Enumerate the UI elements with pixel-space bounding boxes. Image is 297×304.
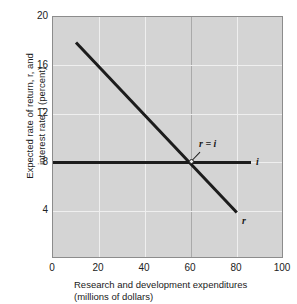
gridline-x-80	[237, 17, 238, 257]
x-tick-60: 60	[175, 263, 205, 273]
x-axis-label-line-2: (millions of dollars)	[74, 291, 247, 303]
x-axis-ticks: 0 20 40 60 80 100	[0, 263, 297, 277]
y-axis-label-line-2: interest rate, i (percent)	[36, 1, 48, 231]
x-axis-label: Research and development expenditures (m…	[74, 279, 247, 303]
gridline-x-60	[191, 17, 192, 257]
y-axis-label: Expected rate of return, r, and interest…	[24, 1, 48, 231]
x-tick-20: 20	[83, 263, 113, 273]
equilibrium-annotation-label: r = i	[199, 139, 216, 149]
series-label-i: i	[256, 157, 259, 167]
gridline-x-20	[99, 17, 100, 257]
x-tick-40: 40	[129, 263, 159, 273]
series-line-i	[53, 161, 251, 164]
y-axis-label-line-1: Expected rate of return, r, and	[24, 1, 36, 231]
x-axis-label-line-1: Research and development expenditures	[74, 279, 247, 291]
equilibrium-point-marker	[189, 159, 194, 164]
gridline-y-4	[53, 211, 282, 212]
chart-figure: r = i i r 20 16 12 8 4 0 20 40 60 80 100…	[0, 0, 297, 304]
gridline-x-40	[145, 17, 146, 257]
x-tick-80: 80	[221, 263, 251, 273]
plot-area: r = i i r	[52, 16, 283, 258]
x-tick-0: 0	[37, 263, 67, 273]
gridline-y-12	[53, 114, 282, 115]
gridline-y-16	[53, 65, 282, 66]
x-tick-100: 100	[267, 263, 297, 273]
series-label-r: r	[242, 216, 246, 226]
